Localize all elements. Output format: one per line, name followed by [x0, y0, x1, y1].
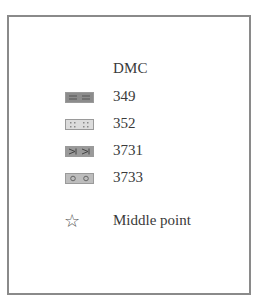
- star-icon: ☆: [64, 211, 80, 231]
- arrow-bracket-swatch-icon: [65, 146, 94, 157]
- legend-item-label: 349: [113, 88, 136, 105]
- middle-point-label: Middle point: [113, 212, 191, 229]
- legend-item-label: 3731: [113, 142, 143, 159]
- legend-item-label: 3733: [113, 169, 143, 186]
- legend-heading: DMC: [113, 60, 148, 77]
- circle-swatch-icon: [65, 173, 94, 184]
- dots-swatch-icon: [65, 119, 94, 130]
- double-dash-swatch-icon: [65, 92, 94, 103]
- legend-item-label: 352: [113, 115, 136, 132]
